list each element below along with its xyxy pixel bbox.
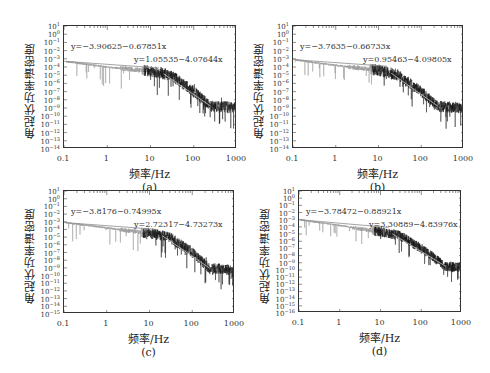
fit-equation-high: y=1.05535−4.07644x <box>134 55 223 64</box>
x-tick-label: 1000 <box>224 320 244 328</box>
fit-equation-high: y=3.30889−4.83976x <box>369 220 458 229</box>
x-tick-label: 1000 <box>226 155 246 163</box>
spectrum-high-freq <box>143 228 234 289</box>
y-tick-label: 10−16 <box>269 308 295 318</box>
x-tick-label: 1 <box>103 320 108 328</box>
panel-caption: (d) <box>372 345 388 358</box>
x-tick-label: 1000 <box>451 319 471 327</box>
spectrum-high-freq <box>374 227 461 282</box>
fit-equation-low: y=−3.78472−0.88921x <box>306 207 401 216</box>
x-axis-label: 频率/Hz <box>357 165 398 181</box>
spectrum-high-freq <box>372 64 463 129</box>
fit-equation-low: y=−3.8176−0.74995x <box>71 207 161 216</box>
fit-line-high <box>391 73 438 106</box>
x-tick-label: 0.1 <box>286 155 299 163</box>
x-tick-label: 100 <box>413 155 428 163</box>
fit-line-high <box>163 74 210 107</box>
x-axis-label: 频率/Hz <box>128 330 169 346</box>
y-tick-label: 10−15 <box>34 309 60 319</box>
x-axis-label: 频率/Hz <box>359 329 400 345</box>
fit-equation-high: y=0.95463−4.09805x <box>363 55 452 64</box>
fit-equation-high: y=2.72317−4.73273x <box>134 220 223 229</box>
x-tick-label: 100 <box>184 320 199 328</box>
fit-line-high <box>393 234 446 266</box>
fit-line-high <box>162 236 209 268</box>
x-tick-label: 100 <box>413 319 428 327</box>
x-tick-label: 10 <box>143 320 153 328</box>
spectrum-low-freq <box>66 222 143 251</box>
x-tick-label: 1 <box>332 155 337 163</box>
fit-equation-low: y=−3.90625−0.67851x <box>71 42 166 51</box>
x-tick-label: 10 <box>374 319 384 327</box>
fit-equation-low: y=−3.7635−0.66733x <box>300 42 390 51</box>
x-tick-label: 1 <box>336 319 341 327</box>
x-tick-label: 0.1 <box>57 320 70 328</box>
x-tick-label: 1000 <box>453 155 473 163</box>
panel-caption: (c) <box>141 346 156 359</box>
x-tick-label: 10 <box>372 155 382 163</box>
x-tick-label: 10 <box>144 155 154 163</box>
spectrum-low-freq <box>66 61 144 89</box>
x-axis-label: 频率/Hz <box>129 165 170 181</box>
x-tick-label: 0.1 <box>292 319 305 327</box>
spectrum-high-freq <box>144 65 236 129</box>
x-tick-label: 0.1 <box>57 155 70 163</box>
x-tick-label: 1 <box>104 155 109 163</box>
y-tick-label: 10−14 <box>263 144 289 154</box>
y-tick-label: 10−14 <box>34 144 60 154</box>
x-tick-label: 100 <box>185 155 200 163</box>
spectrum-low-freq <box>295 59 372 84</box>
